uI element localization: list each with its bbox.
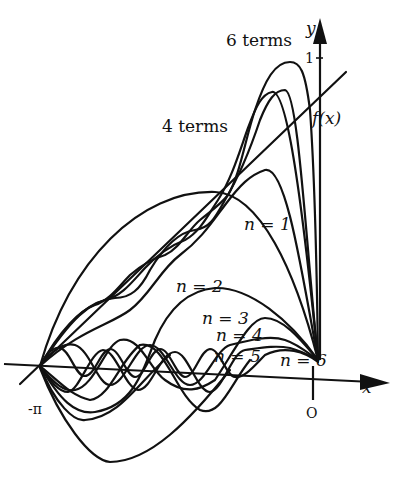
label-6-terms: 6 terms — [226, 30, 292, 50]
label-minus-pi: -π — [28, 401, 42, 417]
label-n5: n = 5 — [214, 346, 261, 366]
label-4-terms: 4 terms — [162, 116, 228, 136]
curve-3-terms — [40, 170, 318, 366]
label-x-axis: x — [362, 377, 372, 397]
label-n1: n = 1 — [244, 214, 291, 234]
label-y-tick-1: 1 — [305, 50, 314, 66]
fourier-series-diagram: 6 terms 4 terms f(x) n = 1 n = 2 n = 3 n… — [0, 0, 397, 482]
label-fx: f(x) — [310, 108, 341, 128]
label-n2: n = 2 — [176, 276, 223, 296]
x-axis — [4, 364, 390, 390]
curve-n1-lower — [40, 368, 230, 462]
label-origin: O — [306, 405, 317, 421]
label-n6: n = 6 — [280, 350, 327, 370]
label-n4: n = 4 — [216, 325, 263, 345]
label-y-axis: y — [305, 18, 316, 38]
